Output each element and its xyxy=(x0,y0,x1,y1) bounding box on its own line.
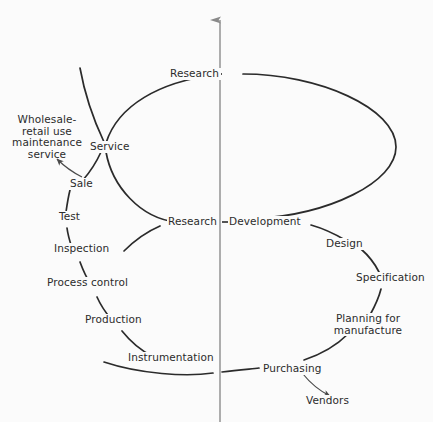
label-instrumentation: Instrumentation xyxy=(126,352,216,364)
label-test: Test xyxy=(57,211,82,223)
arrow-sale-to-wholesale xyxy=(57,159,82,177)
ellipse-arc-upper-left xyxy=(106,75,214,143)
ellipse-arc-right xyxy=(243,74,396,219)
link-specification-design xyxy=(361,249,379,272)
label-service: Service xyxy=(88,141,132,153)
label-specification: Specification xyxy=(354,272,427,284)
label-vendors: Vendors xyxy=(304,395,351,407)
label-design: Design xyxy=(324,238,365,250)
label-development: Development xyxy=(228,216,302,228)
label-wholesale-retail-use: Wholesale- retail use maintenance servic… xyxy=(8,114,86,160)
label-inspection: Inspection xyxy=(52,243,111,255)
label-process-control: Process control xyxy=(45,277,130,289)
link-purchasing-planning xyxy=(304,334,348,360)
ellipse-arc-lower-left xyxy=(106,152,176,222)
link-research-mid-down xyxy=(124,226,160,251)
label-wholesale-line1: Wholesale- xyxy=(8,114,86,126)
label-planning-line1: Planning for xyxy=(328,313,408,325)
diagram-canvas: Research Service Wholesale- retail use m… xyxy=(0,0,433,422)
arrow-purchasing-to-vendors xyxy=(303,374,330,396)
label-purchasing: Purchasing xyxy=(261,363,323,375)
label-research-mid: Research xyxy=(167,216,218,228)
link-bottom-purchasing xyxy=(222,368,259,372)
label-sale: Sale xyxy=(68,178,95,190)
label-research-top: Research xyxy=(168,68,221,80)
link-instrumentation-bottom xyxy=(104,362,213,375)
label-production: Production xyxy=(83,314,144,326)
label-wholesale-line3: maintenance xyxy=(8,137,86,149)
label-planning-line2: manufacture xyxy=(328,325,408,337)
link-sale-test xyxy=(66,190,70,212)
label-planning-for-manufacture: Planning for manufacture xyxy=(328,313,408,336)
label-wholesale-line4: service xyxy=(8,149,86,161)
